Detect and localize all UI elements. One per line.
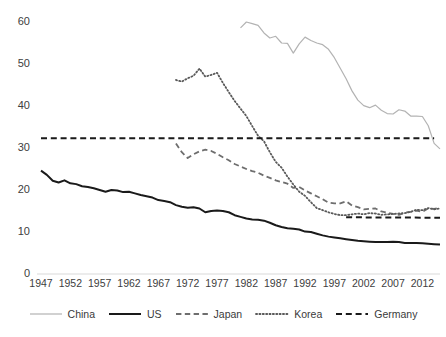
legend-swatch-us-icon [108,309,142,319]
legend-swatch-china-icon [29,309,63,319]
legend-item-korea[interactable]: Korea [255,308,322,320]
series-line-us [41,171,440,245]
legend-item-us[interactable]: US [108,308,162,320]
legend-label-korea: Korea [294,308,322,320]
series-line-china [241,22,441,149]
legend-label-china: China [68,308,95,320]
legend-swatch-korea-icon [255,309,289,319]
legend-swatch-germany-icon [335,309,369,319]
series-line-korea [176,69,440,216]
chart-container: 0102030405060 19471952195719621967197219… [0,0,446,337]
series-line-japan [176,143,440,214]
legend-swatch-japan-icon [175,309,209,319]
legend-item-germany[interactable]: Germany [335,308,417,320]
legend-item-japan[interactable]: Japan [175,308,243,320]
legend-label-us: US [147,308,162,320]
plot-area [0,0,446,337]
legend-label-germany: Germany [374,308,417,320]
legend-item-china[interactable]: China [29,308,95,320]
chart-legend: ChinaUSJapanKoreaGermany [0,308,446,320]
legend-label-japan: Japan [214,308,243,320]
